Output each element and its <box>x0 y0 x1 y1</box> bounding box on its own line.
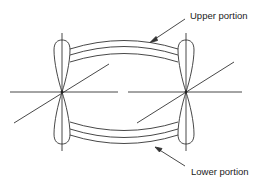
right-atom-nucleus <box>185 91 188 94</box>
left-atom-nucleus <box>61 91 64 94</box>
left-atom-axes <box>10 33 118 151</box>
pi-bond-diagram: Upper portion Lower portion <box>0 0 261 183</box>
upper-portion-arcs <box>70 41 178 63</box>
lower-portion-arcs <box>70 122 178 144</box>
upper-leader-arrow <box>150 19 185 43</box>
lower-leader-arrow <box>155 147 185 166</box>
lower-portion-label: Lower portion <box>191 166 249 177</box>
upper-portion-label: Upper portion <box>190 10 248 21</box>
